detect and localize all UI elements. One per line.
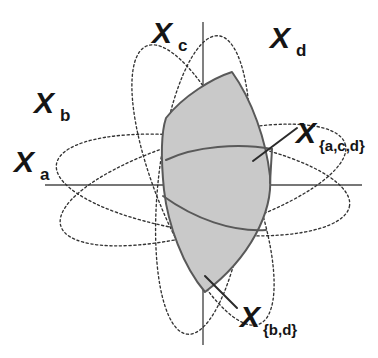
label-x-a-subscript: a — [40, 165, 50, 184]
diagram-canvas: X a X b X c X d X {a,c,d} — [0, 0, 378, 358]
label-x-b-subscript: b — [60, 106, 70, 125]
diagram-figure: X a X b X c X d X {a,c,d} — [0, 0, 378, 358]
label-x-a: X a — [12, 145, 50, 184]
shaded-region-group — [162, 72, 272, 292]
label-x-c-base: X — [150, 16, 174, 49]
label-x-b-base: X — [32, 86, 56, 119]
label-x-acd: X {a,c,d} — [294, 116, 365, 154]
label-x-a-base: X — [12, 145, 36, 178]
label-x-acd-subscript: {a,c,d} — [319, 137, 365, 154]
shaded-intersection-region — [162, 72, 270, 292]
label-x-bd-subscript: {b,d} — [263, 321, 297, 338]
label-x-bd: X {b,d} — [238, 300, 297, 338]
label-x-d-base: X — [268, 21, 292, 54]
region-inner-edge-right — [270, 149, 272, 183]
label-x-bd-base: X — [238, 300, 262, 333]
label-x-c-subscript: c — [178, 36, 187, 55]
label-x-acd-base: X — [294, 116, 318, 149]
label-x-d-subscript: d — [296, 41, 306, 60]
leader-line-x-bd — [205, 276, 237, 308]
label-x-c: X c — [150, 16, 187, 55]
label-x-b: X b — [32, 86, 70, 125]
label-x-d: X d — [268, 21, 306, 60]
